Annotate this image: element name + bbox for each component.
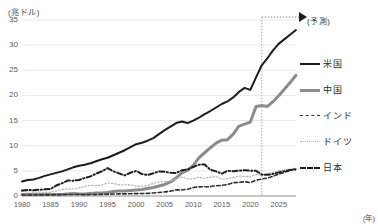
- legend-item-india[interactable]: インド: [300, 102, 378, 128]
- legend-swatch-germany: [300, 136, 320, 146]
- x-tick-1995: 1995: [93, 201, 123, 209]
- legend-swatch-india: [300, 110, 320, 120]
- legend-item-china[interactable]: 中国: [300, 76, 378, 102]
- x-tick-2005: 2005: [150, 201, 180, 209]
- y-tick-25: 25: [0, 66, 18, 74]
- x-tick-2010: 2010: [178, 201, 208, 209]
- legend-item-germany[interactable]: ドイツ: [300, 128, 378, 154]
- y-tick-5: 5: [0, 167, 18, 175]
- x-tick-1985: 1985: [36, 201, 66, 209]
- y-tick-0: 0: [0, 192, 18, 200]
- x-tick-2000: 2000: [121, 201, 151, 209]
- y-tick-30: 30: [0, 41, 18, 49]
- legend-swatch-japan: [300, 162, 320, 172]
- legend-label-india: インド: [323, 109, 353, 122]
- y-tick-15: 15: [0, 117, 18, 125]
- legend-label-japan: 日本: [323, 161, 343, 174]
- legend-label-china: 中国: [323, 83, 343, 96]
- legend-swatch-china: [300, 84, 320, 94]
- gdp-line-chart: (兆ドル) (予測) 05101520253035 19801985199019…: [0, 0, 378, 224]
- chart-legend: 米国中国インドドイツ日本: [300, 50, 378, 180]
- forecast-annotation-label: (予測): [307, 15, 330, 26]
- y-tick-35: 35: [0, 16, 18, 24]
- forecast-arrow-head: [299, 12, 307, 22]
- x-tick-2020: 2020: [235, 201, 265, 209]
- legend-item-usa[interactable]: 米国: [300, 50, 378, 76]
- x-axis-unit-label: (年): [363, 212, 375, 223]
- x-tick-2015: 2015: [207, 201, 237, 209]
- legend-label-germany: ドイツ: [323, 135, 353, 148]
- y-tick-20: 20: [0, 91, 18, 99]
- x-tick-1990: 1990: [64, 201, 94, 209]
- legend-swatch-usa: [300, 58, 320, 68]
- y-tick-10: 10: [0, 142, 18, 150]
- x-tick-2025: 2025: [264, 201, 294, 209]
- x-tick-1980: 1980: [7, 201, 37, 209]
- legend-label-usa: 米国: [323, 57, 343, 70]
- legend-item-japan[interactable]: 日本: [300, 154, 378, 180]
